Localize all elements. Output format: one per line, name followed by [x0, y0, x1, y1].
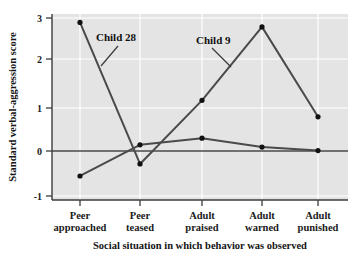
data-point — [77, 20, 82, 25]
cat-label-0-line2: approached — [54, 222, 107, 233]
y-tick-label-neg1: -1 — [34, 191, 42, 202]
data-point — [77, 173, 82, 178]
line-chart: 3 2 1 0 -1 Peer approached Peer teased A… — [0, 0, 362, 255]
data-point — [137, 161, 142, 166]
chart-figure: 3 2 1 0 -1 Peer approached Peer teased A… — [0, 0, 362, 255]
cat-label-4-line1: Adult — [305, 210, 331, 221]
data-point — [259, 144, 264, 149]
cat-label-0-line1: Peer — [70, 210, 91, 221]
cat-label-2-line1: Adult — [189, 210, 215, 221]
y-tick-label-1: 1 — [37, 103, 42, 114]
annotation-child-9: Child 9 — [196, 34, 231, 46]
cat-label-1-line1: Peer — [130, 210, 151, 221]
data-point — [199, 98, 204, 103]
cat-label-3-line1: Adult — [249, 210, 275, 221]
y-tick-label-0: 0 — [37, 146, 42, 157]
data-point — [259, 24, 264, 29]
data-point — [315, 148, 320, 153]
y-tick-label-3: 3 — [37, 13, 42, 24]
cat-label-2-line2: praised — [185, 222, 218, 233]
y-axis-title: Standard verbal-aggression score — [7, 32, 18, 182]
data-point — [199, 136, 204, 141]
data-point — [137, 142, 142, 147]
cat-label-4-line2: punished — [298, 222, 339, 233]
y-tick-label-2: 2 — [37, 54, 42, 65]
x-axis-title: Social situation in which behavior was o… — [93, 240, 307, 251]
annotation-child-28: Child 28 — [96, 31, 137, 43]
cat-label-1-line2: teased — [126, 222, 154, 233]
cat-label-3-line2: warned — [245, 222, 279, 233]
data-point — [315, 114, 320, 119]
